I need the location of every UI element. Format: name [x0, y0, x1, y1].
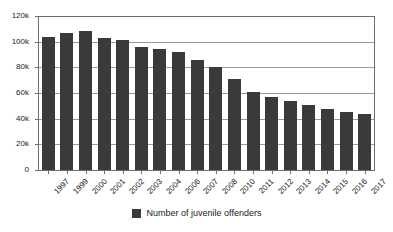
x-tick-label: 2010: [239, 177, 258, 196]
bar: [79, 31, 92, 170]
y-tick-mark: [35, 42, 38, 43]
x-tick-label: 1997: [53, 177, 72, 196]
x-tick-label: 2000: [90, 177, 109, 196]
x-tick-label: 2012: [276, 177, 295, 196]
x-tick-mark: [234, 171, 235, 174]
bar: [358, 114, 371, 170]
y-tick-label: 40k: [16, 115, 29, 123]
y-tick-mark: [35, 67, 38, 68]
bar: [265, 97, 278, 170]
y-tick-label: 20k: [16, 140, 29, 148]
bar: [284, 101, 297, 170]
x-tick-mark: [309, 171, 310, 174]
y-tick-mark: [35, 170, 38, 171]
x-axis: 1997199920002001200220032004200620072008…: [39, 171, 374, 207]
x-tick-label: 2011: [257, 177, 276, 196]
y-tick-label: 100k: [12, 38, 29, 46]
x-tick-label: 2016: [350, 177, 369, 196]
x-tick-mark: [327, 171, 328, 174]
x-tick-label: 2008: [220, 177, 239, 196]
bar: [98, 38, 111, 170]
y-tick-label: 120k: [12, 12, 29, 20]
x-tick-label: 2014: [313, 177, 332, 196]
y-tick-label: 80k: [16, 63, 29, 71]
y-axis: 020k40k60k80k100k120k: [0, 0, 34, 232]
x-tick-label: 2017: [369, 177, 388, 196]
y-tick-label: 0: [25, 166, 29, 174]
bar: [302, 105, 315, 170]
x-tick-label: 2006: [183, 177, 202, 196]
bar: [172, 52, 185, 170]
x-tick-label: 2003: [146, 177, 165, 196]
x-tick-mark: [86, 171, 87, 174]
x-tick-mark: [104, 171, 105, 174]
bar: [321, 109, 334, 170]
bar: [42, 37, 55, 170]
x-tick-label: 2002: [127, 177, 146, 196]
x-tick-mark: [67, 171, 68, 174]
y-tick-label: 60k: [16, 89, 29, 97]
legend-label-juvenile-offenders: Number of juvenile offenders: [147, 208, 262, 218]
x-tick-mark: [290, 171, 291, 174]
bar: [116, 40, 129, 170]
y-tick-mark: [35, 144, 38, 145]
bar: [340, 112, 353, 170]
x-tick-mark: [179, 171, 180, 174]
bar-chart-figure: 020k40k60k80k100k120k 199719992000200120…: [0, 0, 393, 232]
x-tick-mark: [48, 171, 49, 174]
legend-swatch-juvenile-offenders: [132, 209, 141, 218]
x-tick-mark: [141, 171, 142, 174]
y-tick-mark: [35, 16, 38, 17]
y-tick-mark: [35, 93, 38, 94]
x-tick-mark: [216, 171, 217, 174]
x-tick-mark: [160, 171, 161, 174]
bar: [135, 47, 148, 170]
chart-legend: Number of juvenile offenders: [0, 208, 393, 218]
bar: [191, 60, 204, 170]
x-tick-mark: [346, 171, 347, 174]
x-tick-mark: [123, 171, 124, 174]
x-tick-label: 1999: [71, 177, 90, 196]
x-tick-label: 2004: [164, 177, 183, 196]
x-tick-mark: [365, 171, 366, 174]
bar: [209, 67, 222, 170]
bar: [247, 92, 260, 170]
x-tick-mark: [197, 171, 198, 174]
x-tick-mark: [253, 171, 254, 174]
bar: [153, 49, 166, 170]
bar: [60, 33, 73, 170]
x-tick-label: 2013: [294, 177, 313, 196]
x-tick-mark: [272, 171, 273, 174]
x-tick-label: 2015: [332, 177, 351, 196]
y-tick-mark: [35, 119, 38, 120]
x-tick-label: 2007: [201, 177, 220, 196]
bars-layer: [39, 16, 374, 170]
x-tick-label: 2001: [108, 177, 127, 196]
bar: [228, 79, 241, 170]
